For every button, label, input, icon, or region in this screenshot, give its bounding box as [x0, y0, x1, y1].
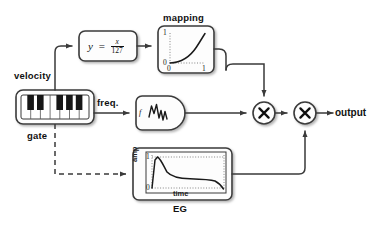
multiplier-velocity-shape[interactable]: [253, 102, 275, 124]
wire-velocity: [55, 46, 72, 90]
midi-keyboard[interactable]: [16, 90, 94, 124]
freq-label: freq.: [97, 97, 119, 108]
formula-denominator: 127: [111, 47, 124, 55]
eg-xaxis-label: time: [173, 189, 188, 198]
mapping-ytick-top: 1: [163, 28, 167, 37]
mapping-label: mapping: [163, 12, 204, 23]
mapping-xtick-left: 0: [167, 64, 171, 73]
eg-yaxis-label: amp: [130, 147, 139, 162]
eg-label: EG: [173, 203, 187, 214]
gate-label: gate: [27, 130, 47, 141]
velocity-label: velocity: [14, 70, 51, 81]
diagram-canvas: velocity gate freq. mapping EG output y …: [0, 0, 370, 226]
formula-fraction: x 127: [111, 38, 124, 54]
oscillator-input-label: f: [139, 108, 141, 117]
formula-equals: =: [96, 40, 108, 52]
eg-ytick-bottom: 0: [146, 183, 150, 192]
wire-mapping-to-mult1: [226, 64, 264, 96]
formula-expression: y = x 127: [88, 38, 124, 54]
eg-ytick-top: 1: [146, 152, 150, 161]
wire-eg-to-mult2: [232, 131, 305, 174]
output-label: output: [335, 107, 366, 118]
mapping-xtick-right: 1: [202, 64, 206, 73]
multiplier-envelope-shape[interactable]: [294, 102, 316, 124]
wire-gate: [55, 124, 126, 174]
formula-y: y: [88, 40, 93, 52]
wire-mapping-out: [214, 49, 226, 70]
